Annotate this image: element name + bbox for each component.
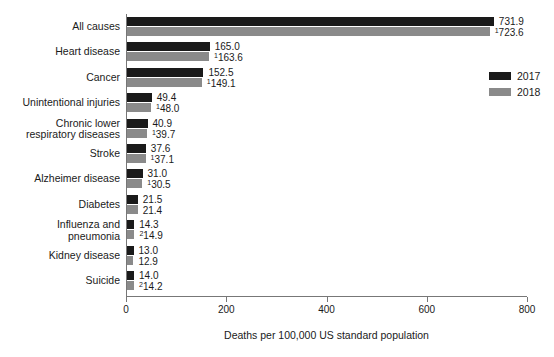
bar-value-2018: 130.5 bbox=[147, 180, 170, 190]
bar-value-2017: 14.3 bbox=[139, 220, 158, 230]
x-tick-800 bbox=[527, 297, 528, 302]
bar-value-2018: 214.9 bbox=[139, 231, 162, 241]
legend-item-2018: 2018 bbox=[489, 84, 540, 100]
bar-2018 bbox=[127, 205, 138, 214]
chart-row: Suicide14.0214.2 bbox=[0, 271, 554, 295]
category-label: Unintentional injuries bbox=[0, 97, 120, 109]
bar-value-2017: 13.0 bbox=[139, 246, 158, 256]
bar-value-2017: 49.4 bbox=[157, 93, 176, 103]
category-label: All causes bbox=[0, 21, 120, 33]
bar-2018 bbox=[127, 52, 209, 61]
bar-value-2017: 31.0 bbox=[148, 169, 167, 179]
bar-value-2018: 1163.6 bbox=[214, 53, 243, 63]
bar-2017 bbox=[127, 220, 134, 229]
bar-value-2017: 152.5 bbox=[208, 68, 233, 78]
legend-swatch-2017 bbox=[489, 72, 511, 80]
bar-2017 bbox=[127, 17, 494, 26]
category-label: Diabetes bbox=[0, 199, 120, 211]
x-tick-label-400: 400 bbox=[318, 304, 335, 315]
bar-2018 bbox=[127, 103, 151, 112]
bar-2018 bbox=[127, 230, 134, 239]
category-label: Heart disease bbox=[0, 46, 120, 58]
legend-swatch-2018 bbox=[489, 88, 511, 96]
chart-row: Heart disease165.01163.6 bbox=[0, 42, 554, 66]
bar-2018 bbox=[127, 281, 134, 290]
x-tick-label-600: 600 bbox=[418, 304, 435, 315]
x-tick-0 bbox=[126, 297, 127, 302]
bar-value-2018: 1723.6 bbox=[495, 28, 524, 38]
category-label: Alzheimer disease bbox=[0, 173, 120, 185]
bar-value-2017: 165.0 bbox=[215, 42, 240, 52]
bar-2018 bbox=[127, 78, 202, 87]
x-tick-label-0: 0 bbox=[123, 304, 129, 315]
chart-row: Kidney disease13.012.9 bbox=[0, 246, 554, 270]
chart-row: Cancer152.51149.1 bbox=[0, 68, 554, 92]
bar-value-2017: 14.0 bbox=[139, 271, 158, 281]
chart-row: Chronic lower respiratory diseases40.913… bbox=[0, 119, 554, 143]
chart-legend: 2017 2018 bbox=[489, 68, 540, 100]
bar-2017 bbox=[127, 246, 134, 255]
chart-row: Unintentional injuries49.4148.0 bbox=[0, 93, 554, 117]
bar-2017 bbox=[127, 42, 210, 51]
bar-value-2018: 137.1 bbox=[151, 155, 174, 165]
bar-2018 bbox=[127, 129, 147, 138]
category-label: Stroke bbox=[0, 148, 120, 160]
bar-value-2018: 139.7 bbox=[152, 130, 175, 140]
bar-value-2017: 40.9 bbox=[153, 119, 172, 129]
bar-value-2017: 21.5 bbox=[143, 195, 162, 205]
x-tick-600 bbox=[427, 297, 428, 302]
bar-2017 bbox=[127, 119, 148, 128]
bar-2017 bbox=[127, 271, 134, 280]
bar-2018 bbox=[127, 256, 133, 265]
chart-row: Alzheimer disease31.0130.5 bbox=[0, 169, 554, 193]
legend-label-2017: 2017 bbox=[517, 70, 540, 82]
category-label: Chronic lower respiratory diseases bbox=[0, 118, 120, 141]
bar-value-2017: 731.9 bbox=[499, 17, 524, 27]
category-label: Suicide bbox=[0, 275, 120, 287]
bar-value-2018: 214.2 bbox=[139, 282, 162, 292]
chart-row: Influenza and pneumonia14.3214.9 bbox=[0, 220, 554, 244]
x-tick-label-800: 800 bbox=[519, 304, 536, 315]
bar-2017 bbox=[127, 68, 203, 77]
chart-row: Stroke37.6137.1 bbox=[0, 144, 554, 168]
x-tick-200 bbox=[226, 297, 227, 302]
bar-value-2018: 21.4 bbox=[143, 206, 162, 216]
bar-2017 bbox=[127, 93, 152, 102]
x-tick-400 bbox=[327, 297, 328, 302]
chart-row: Diabetes21.521.4 bbox=[0, 195, 554, 219]
legend-item-2017: 2017 bbox=[489, 68, 540, 84]
bar-2018 bbox=[127, 27, 490, 36]
category-label: Influenza and pneumonia bbox=[0, 219, 120, 242]
bar-value-2018: 1149.1 bbox=[207, 79, 236, 89]
chart-row: All causes731.91723.6 bbox=[0, 17, 554, 41]
bar-value-2017: 37.6 bbox=[151, 144, 170, 154]
x-tick-label-200: 200 bbox=[218, 304, 235, 315]
bar-2018 bbox=[127, 179, 142, 188]
legend-label-2018: 2018 bbox=[517, 86, 540, 98]
category-label: Kidney disease bbox=[0, 250, 120, 262]
bar-2018 bbox=[127, 154, 146, 163]
bar-2017 bbox=[127, 144, 146, 153]
bar-value-2018: 148.0 bbox=[156, 104, 179, 114]
x-axis-title: Deaths per 100,000 US standard populatio… bbox=[126, 329, 527, 341]
bar-chart: 0200400600800 All causes731.91723.6Heart… bbox=[0, 0, 554, 357]
category-label: Cancer bbox=[0, 72, 120, 84]
bar-2017 bbox=[127, 169, 143, 178]
bar-value-2018: 12.9 bbox=[138, 257, 157, 267]
bar-2017 bbox=[127, 195, 138, 204]
